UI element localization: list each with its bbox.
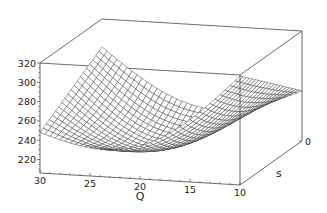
surface-mesh xyxy=(40,47,302,152)
box-edge xyxy=(240,141,302,185)
x-tick-label: 25 xyxy=(84,178,96,189)
z-tick-label: 300 xyxy=(18,77,36,88)
surface-plot: 220240260280300320 3025201510 0 Q s xyxy=(0,0,327,213)
x-axis-title: Q xyxy=(136,190,145,203)
y-axis-title: s xyxy=(276,167,282,180)
x-tick-label: 10 xyxy=(234,187,246,198)
z-tick-label: 220 xyxy=(18,154,36,165)
box-edge xyxy=(40,19,102,63)
z-tick-label: 260 xyxy=(18,115,36,126)
x-tick-label: 30 xyxy=(34,175,46,186)
z-tick-label: 280 xyxy=(18,96,36,107)
z-axis: 220240260280300320 xyxy=(18,58,40,170)
y-tick-label: 0 xyxy=(305,136,311,147)
z-tick-label: 240 xyxy=(18,135,36,146)
box-edge xyxy=(240,31,302,75)
box-edge xyxy=(102,19,302,31)
box-edge xyxy=(40,63,240,75)
z-tick-label: 320 xyxy=(18,58,36,69)
x-tick-label: 15 xyxy=(184,184,196,195)
